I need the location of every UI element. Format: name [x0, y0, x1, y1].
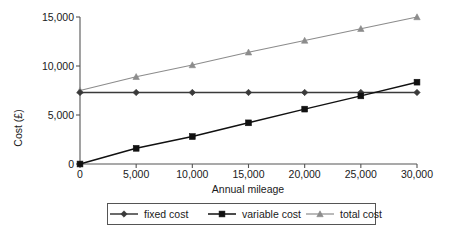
y-axis-title: Cost (£): [12, 109, 24, 146]
legend-label: total cost: [340, 208, 382, 220]
square-marker: [302, 106, 308, 112]
x-axis-tick-labels: 05,00010,00015,00020,00025,00030,000: [77, 168, 433, 180]
square-marker: [246, 120, 252, 126]
y-tick-label: 0: [68, 158, 74, 170]
series-total-cost: [77, 14, 420, 93]
chart-legend: fixed costvariable costtotal cost: [108, 204, 383, 225]
legend-label: fixed cost: [144, 208, 188, 220]
diamond-marker: [189, 89, 195, 95]
diamond-marker: [414, 89, 420, 95]
x-tick-label: 25,000: [345, 168, 377, 180]
square-marker: [189, 134, 195, 140]
diamond-marker: [301, 89, 307, 95]
diamond-marker: [245, 89, 251, 95]
x-tick-label: 10,000: [176, 168, 208, 180]
square-marker: [77, 161, 83, 167]
chart-container: Cost (£) 05,00010,00015,000 05,00010,000…: [0, 0, 456, 240]
x-tick-label: 30,000: [401, 168, 433, 180]
x-tick-label: 0: [77, 168, 83, 180]
legend-square-marker: [219, 211, 225, 217]
legend-label: variable cost: [242, 208, 301, 220]
x-tick-label: 15,000: [232, 168, 264, 180]
square-marker: [133, 145, 139, 151]
cost-vs-mileage-line-chart: Cost (£) 05,00010,00015,000 05,00010,000…: [0, 0, 456, 240]
legend-entries: fixed costvariable costtotal cost: [110, 208, 382, 220]
diamond-marker: [133, 89, 139, 95]
x-tick-label: 5,000: [123, 168, 149, 180]
y-tick-label: 10,000: [42, 60, 74, 72]
y-axis-tick-labels: 05,00010,00015,000: [42, 11, 74, 170]
y-tick-label: 15,000: [42, 11, 74, 23]
y-tick-label: 5,000: [48, 109, 74, 121]
x-axis-title: Annual mileage: [212, 183, 285, 195]
square-marker: [414, 79, 420, 85]
triangle-marker: [414, 14, 420, 20]
x-tick-label: 20,000: [289, 168, 321, 180]
square-marker: [358, 93, 364, 99]
